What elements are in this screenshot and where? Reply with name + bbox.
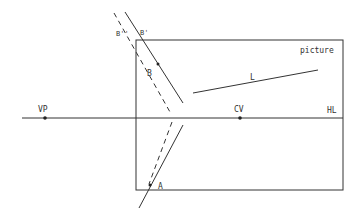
center-of-vision-dot bbox=[238, 116, 242, 120]
vp-label: VP bbox=[38, 105, 48, 114]
point-a-label: A bbox=[158, 182, 163, 191]
perspective-diagram: picture HL VP CV L A B B' B'' bbox=[0, 0, 358, 215]
horizon-label: HL bbox=[327, 106, 337, 115]
picture-frame bbox=[136, 40, 343, 190]
line-l-label: L bbox=[250, 73, 255, 82]
point-b-prime-label: B' bbox=[140, 29, 148, 37]
picture-label: picture bbox=[300, 46, 334, 55]
line-a-solid bbox=[139, 125, 183, 208]
line-b-dashed bbox=[114, 13, 170, 112]
line-l bbox=[193, 70, 318, 93]
cv-label: CV bbox=[234, 105, 244, 114]
point-b-double-prime-label: B'' bbox=[116, 30, 129, 38]
vanishing-point-dot bbox=[43, 116, 47, 120]
point-a-dot bbox=[149, 184, 152, 187]
point-b-label: B bbox=[147, 69, 152, 78]
point-b-dot bbox=[157, 63, 160, 66]
line-b-solid bbox=[125, 12, 183, 103]
